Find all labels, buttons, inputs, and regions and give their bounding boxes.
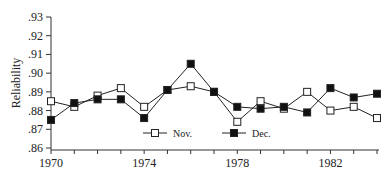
data-point-dec	[117, 96, 124, 103]
filled-square-marker-icon	[231, 130, 238, 137]
data-point-nov	[117, 85, 124, 92]
data-point-dec	[280, 103, 287, 110]
y-tick-label: .86	[28, 141, 43, 155]
legend-item-dec: Dec.	[222, 128, 271, 139]
data-point-dec	[187, 60, 194, 67]
x-tick-label: 1978	[225, 156, 249, 170]
series-layer	[48, 60, 381, 125]
y-tick-label: .87	[28, 122, 43, 136]
data-point-dec	[94, 96, 101, 103]
data-point-dec	[304, 109, 311, 116]
y-tick-label: .89	[28, 85, 43, 99]
y-axis-title: Reliability	[9, 58, 23, 109]
open-square-marker-icon	[152, 130, 159, 137]
data-point-nov	[187, 83, 194, 90]
legend-label: Nov.	[173, 128, 192, 139]
legend: Nov.Dec.	[143, 128, 271, 139]
data-point-dec	[141, 115, 148, 122]
data-point-nov	[48, 98, 55, 105]
y-tick-label: .93	[28, 10, 43, 24]
x-tick-label: 1970	[39, 156, 63, 170]
legend-label: Dec.	[252, 128, 271, 139]
data-point-nov	[350, 103, 357, 110]
y-tick-label: .92	[28, 29, 43, 43]
y-tick-label: .91	[28, 47, 43, 61]
x-tick-label: 1982	[318, 156, 342, 170]
data-point-dec	[71, 100, 78, 107]
data-point-nov	[374, 115, 381, 122]
data-point-dec	[234, 103, 241, 110]
reliability-line-chart: .86.87.88.89.90.91.92.93 197019741978198…	[0, 0, 392, 183]
data-point-nov	[304, 88, 311, 95]
data-point-nov	[257, 98, 264, 105]
data-point-dec	[374, 90, 381, 97]
y-tick-label: .90	[28, 66, 43, 80]
data-point-dec	[211, 88, 218, 95]
data-point-dec	[164, 86, 171, 93]
x-tick-label: 1974	[132, 156, 156, 170]
data-point-dec	[48, 116, 55, 123]
data-point-dec	[257, 105, 264, 112]
data-point-nov	[327, 107, 334, 114]
data-point-nov	[141, 103, 148, 110]
data-point-dec	[350, 94, 357, 101]
y-tick-label: .88	[28, 104, 43, 118]
y-axis: .86.87.88.89.90.91.92.93	[28, 10, 51, 155]
data-point-nov	[234, 118, 241, 125]
data-point-dec	[327, 85, 334, 92]
x-axis: 1970197419781982	[39, 150, 379, 170]
legend-item-nov: Nov.	[143, 128, 192, 139]
